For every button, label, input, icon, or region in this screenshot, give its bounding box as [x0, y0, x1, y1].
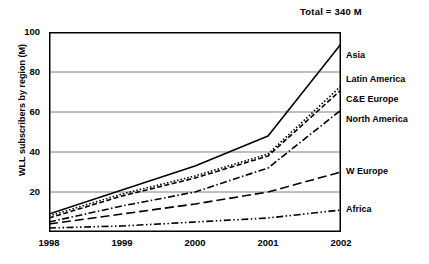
y-tick-20: 20 [14, 186, 40, 197]
series-line-latin-america [49, 86, 341, 216]
series-label-north-america: North America [346, 114, 408, 124]
plot-area [49, 32, 341, 232]
y-tick-80: 80 [14, 66, 40, 77]
series-label-asia: Asia [346, 50, 365, 60]
series-line-w-europe [49, 172, 341, 224]
chart-title-total: Total = 340 M [300, 6, 362, 17]
x-tick-2001: 2001 [248, 237, 288, 248]
series-label-w-europe: W Europe [346, 166, 388, 176]
x-tick-2002: 2002 [321, 237, 361, 248]
plot-svg [49, 32, 341, 232]
x-tick-1998: 1998 [29, 237, 69, 248]
chart-container: Total = 340 M WLL subscribers by region … [0, 0, 429, 264]
y-tick-40: 40 [14, 146, 40, 157]
series-label-c-e-europe: C&E Europe [346, 94, 399, 104]
y-tick-60: 60 [14, 106, 40, 117]
x-tick-1999: 1999 [102, 237, 142, 248]
x-tick-2000: 2000 [175, 237, 215, 248]
series-label-latin-america: Latin America [346, 74, 405, 84]
plot-frame [50, 33, 341, 232]
y-tick-100: 100 [14, 26, 40, 37]
series-label-africa: Africa [346, 204, 372, 214]
